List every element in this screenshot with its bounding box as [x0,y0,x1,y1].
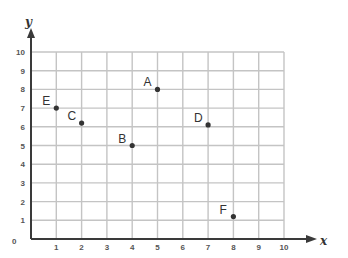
y-tick-label: 6 [21,123,26,132]
y-tick-label: 10 [16,48,25,57]
y-axis-label: y [24,15,33,29]
y-tick-label: 9 [21,67,26,76]
tick-labels: 1234567891012345678910 [16,48,289,252]
point-d [206,122,211,127]
point-a [155,87,160,92]
axes [27,28,317,243]
y-tick-label: 3 [21,179,26,188]
x-axis-arrow-icon [306,235,317,243]
y-tick-label: 7 [21,104,26,113]
y-tick-label: 4 [21,160,26,169]
y-axis-arrow-icon [27,28,35,38]
y-tick-label: 2 [21,198,26,207]
point-label-f: F [219,203,226,217]
point-b [130,143,135,148]
point-label-a: A [144,75,152,89]
coordinate-plane: 1234567891012345678910 ABCDEF y x 0 [0,0,348,258]
data-points: ABCDEF [42,75,236,219]
y-tick-label: 5 [21,142,26,151]
point-e [54,106,59,111]
x-tick-label: 3 [105,243,110,252]
y-tick-label: 1 [21,216,26,225]
x-tick-label: 1 [54,243,59,252]
x-axis-label: x [319,234,328,248]
x-tick-label: 9 [256,243,261,252]
x-tick-label: 10 [280,243,289,252]
point-label-c: C [68,109,77,123]
x-tick-label: 6 [181,243,186,252]
x-tick-label: 4 [130,243,135,252]
point-f [231,214,236,219]
x-tick-label: 2 [79,243,84,252]
point-c [79,120,84,125]
point-label-b: B [118,132,126,146]
point-label-e: E [42,94,50,108]
x-tick-label: 8 [231,243,236,252]
y-tick-label: 8 [21,85,26,94]
x-tick-label: 7 [206,243,211,252]
origin-label: 0 [12,237,17,246]
grid-lines [31,52,284,239]
point-label-d: D [194,111,203,125]
x-tick-label: 5 [155,243,160,252]
